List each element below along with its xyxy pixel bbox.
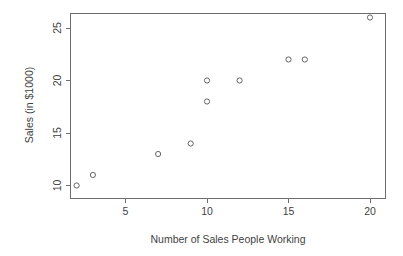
data-point	[90, 172, 95, 177]
x-tick-label-5: 5	[123, 205, 129, 217]
y-tick-label-20: 20	[51, 75, 63, 87]
x-tick-label-20: 20	[364, 205, 376, 217]
y-axis-tick-labels: 10 15 20 25	[51, 22, 63, 191]
x-axis-tick-labels: 5 10 15 20	[123, 205, 376, 217]
data-point	[237, 78, 242, 83]
chart-screenshot: 10 15 20 25 5 10 15 20 Number of Sales P…	[0, 0, 403, 256]
x-tick-label-15: 15	[283, 205, 295, 217]
data-point	[286, 57, 291, 62]
data-point	[302, 57, 307, 62]
data-point	[204, 99, 209, 104]
data-point	[188, 141, 193, 146]
y-tick-label-10: 10	[51, 180, 63, 192]
scatter-plot: 10 15 20 25 5 10 15 20 Number of Sales P…	[0, 0, 403, 256]
y-axis-ticks	[66, 28, 71, 186]
data-point	[367, 15, 372, 20]
x-axis-title: Number of Sales People Working	[150, 233, 305, 245]
x-tick-label-10: 10	[201, 205, 213, 217]
data-point-group	[74, 15, 373, 188]
x-axis-ticks	[126, 199, 371, 204]
y-tick-label-15: 15	[51, 127, 63, 139]
plot-frame	[71, 14, 386, 199]
data-point	[74, 183, 79, 188]
data-point	[156, 151, 161, 156]
y-tick-label-25: 25	[51, 22, 63, 34]
y-axis-title: Sales (in $1000)	[23, 67, 35, 143]
data-point	[204, 78, 209, 83]
